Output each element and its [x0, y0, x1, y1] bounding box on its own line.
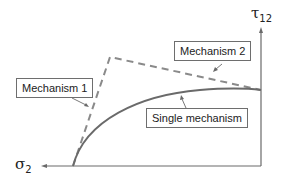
sigma-symbol: σ [15, 155, 25, 173]
single-leader-arrow-icon [180, 95, 184, 100]
mechanism1-label: Mechanism 1 [16, 78, 93, 98]
mechanism1-leader [72, 98, 86, 105]
single-leader [182, 99, 186, 108]
sigma-subscript: 2 [25, 164, 31, 175]
mechanism2-leader [216, 64, 222, 69]
tau-subscript: 12 [259, 13, 272, 24]
mechanism2-label: Mechanism 2 [174, 41, 251, 61]
sigma2-axis-label: σ2 [15, 157, 32, 177]
sigma2-arrowhead-icon [41, 164, 47, 168]
tau12-arrowhead-icon [259, 27, 263, 33]
tau12-axis-label: τ12 [251, 6, 272, 26]
mechanism1-leader-arrow-icon [84, 103, 89, 107]
single-mechanism-label: Single mechanism [146, 108, 248, 128]
